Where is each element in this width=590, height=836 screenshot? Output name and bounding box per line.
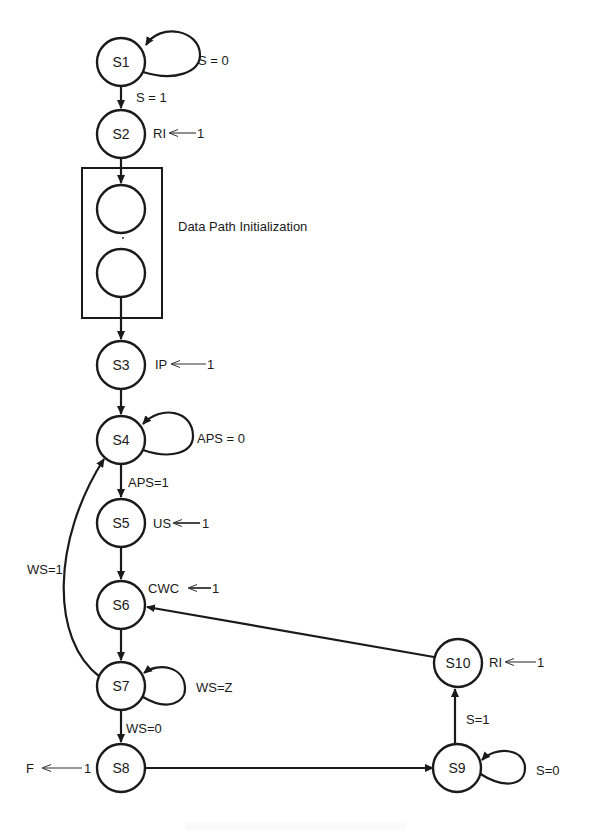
state-init-1 xyxy=(97,185,145,233)
svg-text:S7: S7 xyxy=(112,678,129,694)
group-dot xyxy=(122,237,124,239)
loop-s9 xyxy=(479,751,525,784)
action-s10: RI 1 xyxy=(489,655,544,670)
action-s8: F 1 xyxy=(26,761,91,776)
label-s9-s10: S=1 xyxy=(466,712,490,727)
state-s3: S3 xyxy=(97,341,145,389)
state-init-2 xyxy=(97,249,145,297)
svg-text:1: 1 xyxy=(197,126,204,141)
label-s7-loop: WS=Z xyxy=(196,680,233,695)
label-s7-s8: WS=0 xyxy=(126,721,162,736)
svg-text:F: F xyxy=(26,761,34,776)
loop-s1 xyxy=(143,31,200,76)
svg-text:IP: IP xyxy=(155,357,167,372)
svg-text:S1: S1 xyxy=(112,54,129,70)
svg-text:S2: S2 xyxy=(112,126,129,142)
svg-text:CWC: CWC xyxy=(148,581,179,596)
label-s1-loop: S = 0 xyxy=(198,53,229,68)
svg-text:S8: S8 xyxy=(112,760,129,776)
state-s10: S10 xyxy=(434,639,482,687)
svg-text:1: 1 xyxy=(207,357,214,372)
group-label: Data Path Initialization xyxy=(178,219,307,234)
state-s4: S4 xyxy=(97,416,145,464)
edge-s7-s4 xyxy=(64,459,104,677)
svg-text:S4: S4 xyxy=(112,432,129,448)
state-s2: S2 xyxy=(97,110,145,158)
edge-s10-s6 xyxy=(147,607,434,657)
loop-s7 xyxy=(143,667,185,704)
svg-text:S10: S10 xyxy=(446,655,471,671)
label-s4-s5: APS=1 xyxy=(128,475,169,490)
svg-text:RI: RI xyxy=(153,126,166,141)
svg-text:1: 1 xyxy=(202,516,209,531)
state-s8: S8 xyxy=(97,744,145,792)
svg-text:S3: S3 xyxy=(112,357,129,373)
loop-s4 xyxy=(143,413,193,455)
state-s7: S7 xyxy=(97,662,145,710)
svg-text:1: 1 xyxy=(212,581,219,596)
faded-caption xyxy=(185,822,405,830)
label-s9-loop: S=0 xyxy=(536,763,560,778)
action-s5: US 1 xyxy=(153,516,209,531)
state-s6: S6 xyxy=(97,581,145,629)
action-s6: CWC 1 xyxy=(148,581,219,596)
action-s2: RI 1 xyxy=(153,126,204,141)
action-s3: IP 1 xyxy=(155,357,214,372)
label-s1-s2: S = 1 xyxy=(136,90,167,105)
state-diagram: Data Path Initialization S1 S2 S3 S4 xyxy=(0,0,590,836)
svg-text:1: 1 xyxy=(537,655,544,670)
svg-text:RI: RI xyxy=(489,655,502,670)
svg-text:US: US xyxy=(153,516,171,531)
svg-text:S6: S6 xyxy=(112,597,129,613)
state-s1: S1 xyxy=(97,38,145,86)
state-s9: S9 xyxy=(433,744,481,792)
label-s7-s4: WS=1 xyxy=(27,562,63,577)
svg-text:S9: S9 xyxy=(448,760,465,776)
state-s5: S5 xyxy=(97,499,145,547)
svg-text:1: 1 xyxy=(84,761,91,776)
svg-text:S5: S5 xyxy=(112,515,129,531)
label-s4-loop: APS = 0 xyxy=(197,431,245,446)
